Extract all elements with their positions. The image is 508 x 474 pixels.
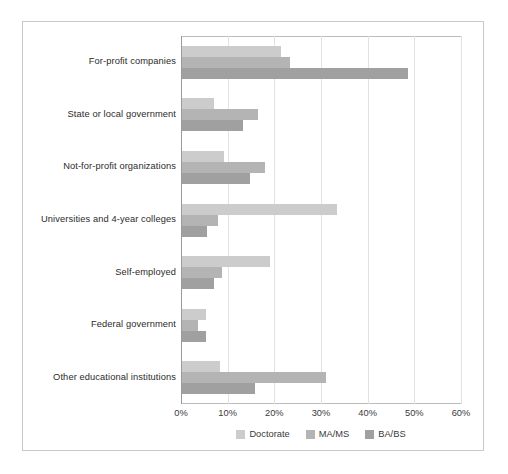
bar[interactable] xyxy=(182,331,206,342)
bar[interactable] xyxy=(182,109,258,120)
x-tick-label: 20% xyxy=(265,408,284,418)
legend-item[interactable]: MA/MS xyxy=(306,429,349,439)
bar[interactable] xyxy=(182,372,326,383)
chart-legend: DoctorateMA/MSBA/BS xyxy=(181,427,461,441)
x-axis-tick-labels: 0%10%20%30%40%50%60% xyxy=(181,408,461,422)
legend-label: Doctorate xyxy=(249,429,289,439)
bar-group xyxy=(182,256,461,289)
bar[interactable] xyxy=(182,215,218,226)
x-tick-label: 0% xyxy=(174,408,187,418)
legend-label: MA/MS xyxy=(319,429,349,439)
legend-swatch-icon xyxy=(236,430,245,439)
bar[interactable] xyxy=(182,46,281,57)
x-tick-label: 60% xyxy=(452,408,471,418)
category-label: Not-for-profit organizations xyxy=(21,161,176,172)
category-label: For-profit companies xyxy=(21,56,176,67)
chart-figure: For-profit companiesState or local gover… xyxy=(0,0,508,474)
x-tick-label: 10% xyxy=(218,408,237,418)
category-axis-labels: For-profit companiesState or local gover… xyxy=(20,36,176,404)
legend-swatch-icon xyxy=(306,430,315,439)
bar[interactable] xyxy=(182,68,408,79)
bar[interactable] xyxy=(182,278,214,289)
bar[interactable] xyxy=(182,98,214,109)
bar[interactable] xyxy=(182,151,224,162)
bar[interactable] xyxy=(182,383,255,394)
bar[interactable] xyxy=(182,162,265,173)
bar-group xyxy=(182,361,461,394)
bar[interactable] xyxy=(182,256,270,267)
bar[interactable] xyxy=(182,204,337,215)
bar-group xyxy=(182,98,461,131)
x-tick-label: 50% xyxy=(405,408,424,418)
bar[interactable] xyxy=(182,309,206,320)
gridline-60 xyxy=(461,36,462,404)
bar-group xyxy=(182,204,461,237)
category-label: Self-employed xyxy=(21,267,176,278)
bar[interactable] xyxy=(182,226,207,237)
category-label: Universities and 4-year colleges xyxy=(21,214,176,225)
x-tick-label: 40% xyxy=(358,408,377,418)
category-label: Other educational institutions xyxy=(21,372,176,383)
bar[interactable] xyxy=(182,173,250,184)
bar[interactable] xyxy=(182,320,198,331)
plot-area xyxy=(181,36,461,404)
category-label: Federal government xyxy=(21,319,176,330)
category-label: State or local government xyxy=(21,109,176,120)
bar-group xyxy=(182,309,461,342)
bar[interactable] xyxy=(182,267,222,278)
bar-group xyxy=(182,151,461,184)
x-tick-label: 30% xyxy=(312,408,331,418)
bar-group xyxy=(182,46,461,79)
legend-item[interactable]: Doctorate xyxy=(236,429,289,439)
legend-item[interactable]: BA/BS xyxy=(365,429,405,439)
legend-swatch-icon xyxy=(365,430,374,439)
bar[interactable] xyxy=(182,361,220,372)
bar[interactable] xyxy=(182,57,290,68)
legend-label: BA/BS xyxy=(378,429,405,439)
bar[interactable] xyxy=(182,120,243,131)
